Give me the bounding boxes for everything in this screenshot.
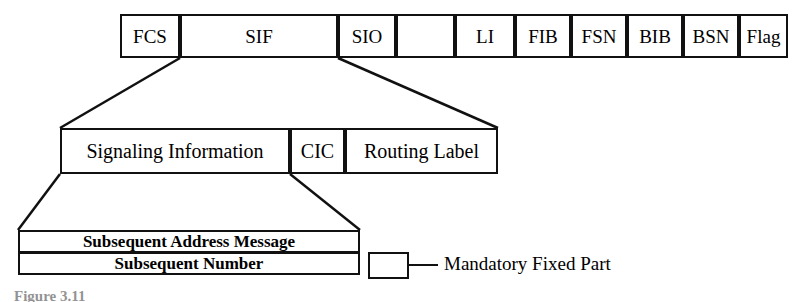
legend-label-mandatory-fixed-part: Mandatory Fixed Part bbox=[444, 253, 611, 275]
frame-field-fib[interactable]: FIB bbox=[515, 14, 571, 58]
sif-field-cic[interactable]: CIC bbox=[290, 128, 345, 174]
message-field-subsequent-address-message[interactable]: Subsequent Address Message bbox=[18, 230, 360, 253]
frame-field-bsn[interactable]: BSN bbox=[683, 14, 739, 58]
sif-field-signaling-information[interactable]: Signaling Information bbox=[60, 128, 290, 174]
frame-field-fcs[interactable]: FCS bbox=[120, 14, 180, 58]
legend-swatch-mandatory-fixed-part bbox=[368, 252, 409, 279]
connector-sif-left bbox=[60, 58, 180, 128]
frame-field-bib[interactable]: BIB bbox=[627, 14, 683, 58]
frame-field-spare[interactable] bbox=[396, 14, 455, 58]
sif-field-routing-label[interactable]: Routing Label bbox=[345, 128, 498, 174]
frame-field-sif[interactable]: SIF bbox=[180, 14, 338, 58]
connector-si-right bbox=[290, 174, 360, 230]
frame-field-li[interactable]: LI bbox=[455, 14, 515, 58]
frame-field-fsn[interactable]: FSN bbox=[571, 14, 627, 58]
message-field-subsequent-number[interactable]: Subsequent Number bbox=[18, 252, 360, 275]
connector-si-left bbox=[18, 174, 60, 230]
connector-sif-right bbox=[338, 58, 498, 128]
frame-field-flag[interactable]: Flag bbox=[739, 14, 788, 58]
figure-caption: Figure 3.11 bbox=[14, 288, 85, 302]
frame-field-sio[interactable]: SIO bbox=[338, 14, 396, 58]
